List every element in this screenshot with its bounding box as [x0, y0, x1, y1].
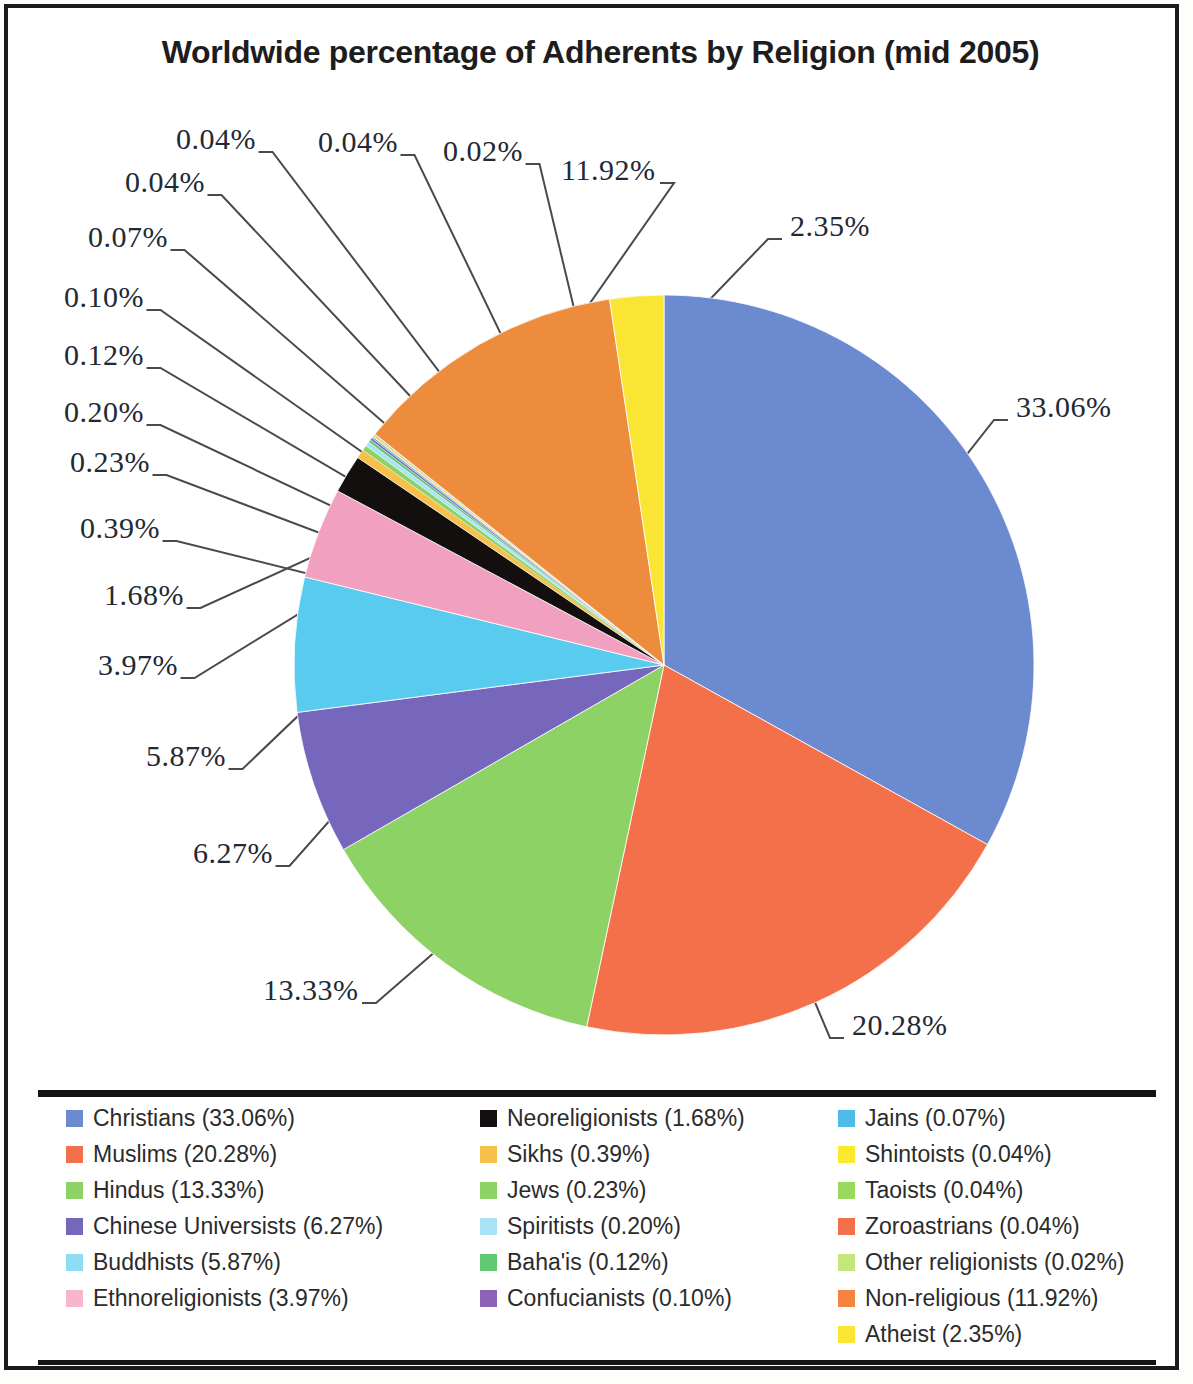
callout-shintoists: 0.04% [318, 125, 398, 159]
legend-item-atheist[interactable]: Atheist (2.35%) [838, 1316, 1178, 1352]
legend-label-sikhs: Sikhs (0.39%) [507, 1141, 650, 1168]
pie-chart-area: Worldwide percentage of Adherents by Rel… [8, 8, 1193, 1063]
legend-item-buddhists[interactable]: Buddhists (5.87%) [66, 1244, 466, 1280]
callout-ethnoreligionists: 3.97% [98, 648, 178, 682]
legend-item-non-religious[interactable]: Non-religious (11.92%) [838, 1280, 1178, 1316]
legend-label-spiritists: Spiritists (0.20%) [507, 1213, 681, 1240]
callout-jews: 0.23% [70, 445, 150, 479]
callout-jains: 0.07% [88, 220, 168, 254]
callout-other-religionists: 0.02% [443, 134, 523, 168]
legend-swatch-jews [480, 1182, 497, 1199]
legend-swatch-buddhists [66, 1254, 83, 1271]
legend-label-bahais: Baha'is (0.12%) [507, 1249, 669, 1276]
callout-taoists: 0.04% [176, 122, 256, 156]
legend-swatch-bahais [480, 1254, 497, 1271]
legend-label-chinese-universists: Chinese Universists (6.27%) [93, 1213, 383, 1240]
callout-sikhs: 0.39% [80, 511, 160, 545]
legend-label-atheist: Atheist (2.35%) [865, 1321, 1022, 1348]
legend-item-bahais[interactable]: Baha'is (0.12%) [480, 1244, 830, 1280]
legend-swatch-ethnoreligionists [66, 1290, 83, 1307]
legend-swatch-chinese-universists [66, 1218, 83, 1235]
callout-buddhists: 5.87% [146, 739, 226, 773]
legend-swatch-taoists [838, 1182, 855, 1199]
legend-swatch-hindus [66, 1182, 83, 1199]
callout-non-religious: 11.92% [561, 153, 655, 187]
legend-label-taoists: Taoists (0.04%) [865, 1177, 1024, 1204]
legend-swatch-neoreligionists [480, 1110, 497, 1127]
legend-item-ethnoreligionists[interactable]: Ethnoreligionists (3.97%) [66, 1280, 466, 1316]
legend-item-jews[interactable]: Jews (0.23%) [480, 1172, 830, 1208]
legend-bottom-rule [38, 1360, 1156, 1365]
legend-item-shintoists[interactable]: Shintoists (0.04%) [838, 1136, 1178, 1172]
legend-swatch-spiritists [480, 1218, 497, 1235]
legend-item-other-religionists[interactable]: Other religionists (0.02%) [838, 1244, 1178, 1280]
legend-label-christians: Christians (33.06%) [93, 1105, 295, 1132]
legend-label-confucianists: Confucianists (0.10%) [507, 1285, 732, 1312]
legend-label-neoreligionists: Neoreligionists (1.68%) [507, 1105, 745, 1132]
legend-item-hindus[interactable]: Hindus (13.33%) [66, 1172, 466, 1208]
legend-label-non-religious: Non-religious (11.92%) [865, 1285, 1099, 1312]
callout-neoreligionists: 1.68% [104, 578, 184, 612]
callout-chinese-universists: 6.27% [193, 836, 273, 870]
callout-atheist: 2.35% [790, 209, 870, 243]
legend-swatch-non-religious [838, 1290, 855, 1307]
legend-swatch-atheist [838, 1326, 855, 1343]
legend-item-jains[interactable]: Jains (0.07%) [838, 1100, 1178, 1136]
legend-label-jews: Jews (0.23%) [507, 1177, 646, 1204]
legend: Christians (33.06%)Muslims (20.28%)Hindu… [38, 1100, 1158, 1355]
legend-column-2: Neoreligionists (1.68%)Sikhs (0.39%)Jews… [480, 1100, 830, 1316]
legend-label-other-religionists: Other religionists (0.02%) [865, 1249, 1125, 1276]
legend-column-1: Christians (33.06%)Muslims (20.28%)Hindu… [66, 1100, 466, 1316]
legend-column-3: Jains (0.07%)Shintoists (0.04%)Taoists (… [838, 1100, 1178, 1352]
legend-label-ethnoreligionists: Ethnoreligionists (3.97%) [93, 1285, 349, 1312]
legend-item-spiritists[interactable]: Spiritists (0.20%) [480, 1208, 830, 1244]
callout-bahais: 0.12% [64, 338, 144, 372]
legend-label-jains: Jains (0.07%) [865, 1105, 1006, 1132]
callout-zoroastrians: 0.04% [125, 165, 205, 199]
legend-label-shintoists: Shintoists (0.04%) [865, 1141, 1052, 1168]
callout-hindus: 13.33% [263, 973, 359, 1007]
legend-swatch-christians [66, 1110, 83, 1127]
callout-confucianists: 0.10% [64, 280, 144, 314]
legend-item-neoreligionists[interactable]: Neoreligionists (1.68%) [480, 1100, 830, 1136]
legend-label-hindus: Hindus (13.33%) [93, 1177, 264, 1204]
legend-swatch-muslims [66, 1146, 83, 1163]
legend-item-zoroastrians[interactable]: Zoroastrians (0.04%) [838, 1208, 1178, 1244]
callout-spiritists: 0.20% [64, 395, 144, 429]
legend-swatch-zoroastrians [838, 1218, 855, 1235]
legend-swatch-jains [838, 1110, 855, 1127]
legend-swatch-sikhs [480, 1146, 497, 1163]
legend-swatch-other-religionists [838, 1254, 855, 1271]
legend-item-christians[interactable]: Christians (33.06%) [66, 1100, 466, 1136]
legend-item-confucianists[interactable]: Confucianists (0.10%) [480, 1280, 830, 1316]
callout-muslims: 20.28% [852, 1008, 948, 1042]
legend-item-taoists[interactable]: Taoists (0.04%) [838, 1172, 1178, 1208]
pie-slices-group [294, 295, 1034, 1035]
legend-item-chinese-universists[interactable]: Chinese Universists (6.27%) [66, 1208, 466, 1244]
legend-label-buddhists: Buddhists (5.87%) [93, 1249, 281, 1276]
legend-item-sikhs[interactable]: Sikhs (0.39%) [480, 1136, 830, 1172]
callout-christians: 33.06% [1016, 390, 1112, 424]
legend-label-zoroastrians: Zoroastrians (0.04%) [865, 1213, 1080, 1240]
legend-top-rule [38, 1090, 1156, 1097]
legend-swatch-shintoists [838, 1146, 855, 1163]
legend-swatch-confucianists [480, 1290, 497, 1307]
legend-item-muslims[interactable]: Muslims (20.28%) [66, 1136, 466, 1172]
chart-frame: Worldwide percentage of Adherents by Rel… [4, 4, 1179, 1370]
legend-label-muslims: Muslims (20.28%) [93, 1141, 277, 1168]
